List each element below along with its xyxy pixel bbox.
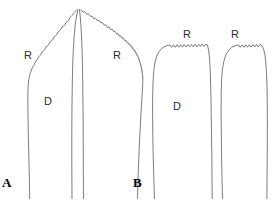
panel-a-midrib-right <box>80 10 84 200</box>
panel-b-drawing <box>153 44 268 199</box>
panel-a-right-outline <box>81 10 143 199</box>
panel-b-left-lobe-outline <box>153 44 213 199</box>
panel-a-left-outline <box>28 10 77 199</box>
figure-canvas: A B R R D R R D <box>0 0 272 199</box>
panel-a-label-r-left: R <box>24 50 32 61</box>
panel-label-a: A <box>2 176 11 189</box>
panel-b-label-d: D <box>173 101 181 112</box>
panel-a-midrib-left <box>72 10 78 200</box>
panel-label-b: B <box>133 176 142 189</box>
panel-a-label-d: D <box>44 96 52 107</box>
panel-a-label-r-right: R <box>113 50 121 61</box>
panel-b-label-r-left: R <box>183 29 191 40</box>
panel-b-right-lobe-outline <box>221 44 267 199</box>
panel-b-label-r-right: R <box>231 29 239 40</box>
